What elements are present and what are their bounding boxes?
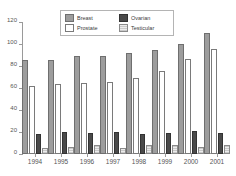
y-tick-label: 60 [10, 83, 17, 90]
x-tick-label: 2001 [204, 158, 230, 166]
bar-breast [100, 56, 106, 154]
bar-ovarian [114, 132, 120, 154]
y-tick-label: 100 [7, 39, 17, 46]
bar-set [126, 22, 152, 154]
y-tick-label: 80 [10, 61, 17, 68]
legend-item-prostate: Prostate [65, 24, 115, 32]
bar-testicular [224, 145, 230, 154]
bar-ovarian [62, 132, 68, 154]
x-tick-label: 1997 [100, 158, 126, 166]
y-tick-label: 0 [14, 149, 17, 156]
x-tick-mark [165, 154, 166, 157]
bar-breast [178, 44, 184, 154]
bar-breast [22, 60, 28, 154]
bar-group: 2000 [178, 22, 204, 154]
legend-item-breast: Breast [65, 14, 115, 22]
bar-breast [74, 56, 80, 154]
bar-group: 1995 [48, 22, 74, 154]
bar-ovarian [218, 133, 224, 154]
bar-set [100, 22, 126, 154]
bar-group: 1994 [22, 22, 48, 154]
x-tick-label: 1998 [126, 158, 152, 166]
legend-swatch-testicular [119, 24, 128, 32]
bar-group: 1998 [126, 22, 152, 154]
legend-label-ovarian: Ovarian [131, 15, 150, 21]
x-tick-mark [139, 154, 140, 157]
legend-label-breast: Breast [77, 15, 93, 21]
x-tick-mark [87, 154, 88, 157]
x-tick-mark [113, 154, 114, 157]
legend-label-testicular: Testicular [131, 25, 154, 31]
bar-ovarian [192, 131, 198, 154]
bar-prostate [55, 84, 61, 154]
bar-ovarian [140, 134, 146, 154]
x-tick-mark [35, 154, 36, 157]
bar-prostate [159, 71, 165, 154]
bar-breast [48, 60, 54, 154]
plot-area: 020406080100120 199419951996199719981999… [22, 22, 230, 154]
bar-prostate [81, 83, 87, 154]
bar-prostate [133, 78, 139, 154]
bar-chart: 020406080100120 199419951996199719981999… [0, 0, 236, 176]
bar-prostate [107, 82, 113, 154]
y-tick-label: 40 [10, 105, 17, 112]
x-tick-label: 1994 [22, 158, 48, 166]
y-tick-label: 20 [10, 127, 17, 134]
bar-prostate [185, 59, 191, 155]
x-tick-label: 1999 [152, 158, 178, 166]
bar-group: 1997 [100, 22, 126, 154]
bar-set [178, 22, 204, 154]
legend-label-prostate: Prostate [77, 25, 97, 31]
chart-legend: Breast Ovarian Prostate Testicular [60, 10, 174, 36]
bar-set [152, 22, 178, 154]
bar-set [22, 22, 48, 154]
bar-set [48, 22, 74, 154]
bar-prostate [211, 49, 217, 154]
bar-group: 2001 [204, 22, 230, 154]
x-tick-mark [191, 154, 192, 157]
legend-item-ovarian: Ovarian [119, 14, 169, 22]
bar-breast [204, 33, 210, 154]
bar-breast [152, 50, 158, 154]
bar-ovarian [36, 134, 42, 154]
bar-group: 1999 [152, 22, 178, 154]
x-tick-label: 2000 [178, 158, 204, 166]
y-tick-label: 120 [7, 17, 17, 24]
y-tick-mark [19, 154, 23, 155]
x-tick-label: 1995 [48, 158, 74, 166]
x-tick-label: 1996 [74, 158, 100, 166]
legend-item-testicular: Testicular [119, 24, 169, 32]
bar-set [204, 22, 230, 154]
bar-ovarian [166, 133, 172, 154]
bar-ovarian [88, 133, 94, 154]
x-tick-mark [217, 154, 218, 157]
bar-groups: 19941995199619971998199920002001 [22, 22, 230, 154]
bar-set [74, 22, 100, 154]
x-tick-mark [61, 154, 62, 157]
legend-swatch-ovarian [119, 14, 128, 22]
bar-group: 1996 [74, 22, 100, 154]
legend-swatch-prostate [65, 24, 74, 32]
bar-prostate [29, 86, 35, 154]
legend-swatch-breast [65, 14, 74, 22]
bar-breast [126, 53, 132, 154]
